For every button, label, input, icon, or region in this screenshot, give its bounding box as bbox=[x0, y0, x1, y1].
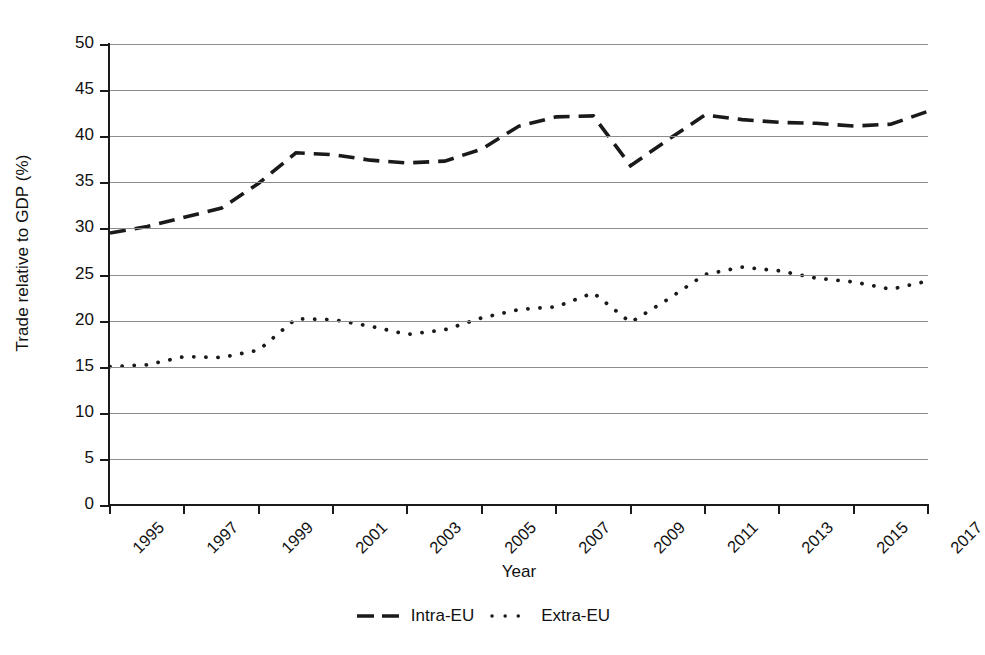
gridline bbox=[110, 321, 928, 322]
x-tick-label: 2009 bbox=[649, 518, 688, 557]
gridline bbox=[110, 275, 928, 276]
x-tick-mark bbox=[630, 505, 632, 514]
gridline bbox=[110, 90, 928, 91]
dotted-line-marker bbox=[490, 610, 532, 622]
y-tick-label: 50 bbox=[58, 33, 94, 53]
y-tick-label: 10 bbox=[58, 402, 94, 422]
gridline bbox=[110, 228, 928, 229]
x-tick-label: 2003 bbox=[426, 518, 465, 557]
y-tick-label: 25 bbox=[58, 264, 94, 284]
gridline bbox=[110, 459, 928, 460]
series-line-extra-eu bbox=[110, 267, 928, 367]
y-tick-label: 5 bbox=[58, 448, 94, 468]
y-tick-mark bbox=[100, 182, 109, 184]
y-tick-mark bbox=[100, 367, 109, 369]
x-tick-mark bbox=[853, 505, 855, 514]
y-tick-label: 15 bbox=[58, 356, 94, 376]
x-tick-label: 2017 bbox=[947, 518, 985, 557]
x-tick-mark bbox=[258, 505, 260, 514]
x-axis-title: Year bbox=[502, 562, 537, 581]
y-tick-mark bbox=[100, 321, 109, 323]
y-tick-mark bbox=[100, 275, 109, 277]
y-tick-label: 45 bbox=[58, 79, 94, 99]
gridline bbox=[110, 44, 928, 45]
legend-item-extra-eu: Extra-EU bbox=[490, 606, 610, 626]
y-axis-title: Trade relative to GDP (%) bbox=[13, 154, 33, 351]
x-tick-mark bbox=[927, 505, 929, 514]
gridline bbox=[110, 367, 928, 368]
gridline bbox=[110, 182, 928, 183]
x-tick-label: 1999 bbox=[277, 518, 316, 557]
y-tick-mark bbox=[100, 90, 109, 92]
legend-label-extra-eu: Extra-EU bbox=[541, 606, 610, 626]
y-tick-mark bbox=[100, 44, 109, 46]
y-tick-mark bbox=[100, 459, 109, 461]
gridline bbox=[110, 136, 928, 137]
x-tick-label: 2011 bbox=[723, 518, 762, 557]
dashed-line-marker bbox=[356, 610, 402, 622]
x-tick-label: 2015 bbox=[872, 518, 911, 557]
x-tick-label: 1995 bbox=[129, 518, 168, 557]
y-tick-mark bbox=[100, 505, 109, 507]
x-tick-mark bbox=[704, 505, 706, 514]
y-axis-tick-labels: 05101520253035404550 bbox=[50, 0, 94, 520]
x-tick-mark bbox=[332, 505, 334, 514]
gridline bbox=[110, 413, 928, 414]
y-tick-label: 30 bbox=[58, 217, 94, 237]
x-tick-mark bbox=[109, 505, 111, 514]
legend-item-intra-eu: Intra-EU bbox=[356, 606, 474, 626]
x-tick-mark bbox=[406, 505, 408, 514]
x-tick-label: 2013 bbox=[798, 518, 837, 557]
x-tick-label: 2007 bbox=[575, 518, 614, 557]
y-tick-label: 40 bbox=[58, 125, 94, 145]
y-tick-mark bbox=[100, 413, 109, 415]
x-tick-mark bbox=[183, 505, 185, 514]
y-tick-label: 20 bbox=[58, 310, 94, 330]
x-tick-mark bbox=[555, 505, 557, 514]
y-axis-title-container: Trade relative to GDP (%) bbox=[6, 0, 40, 505]
y-tick-label: 0 bbox=[58, 494, 94, 514]
plot-area bbox=[110, 44, 928, 505]
x-axis-title-container: Year bbox=[110, 562, 928, 582]
chart-legend: Intra-EU Extra-EU bbox=[0, 606, 966, 626]
y-tick-mark bbox=[100, 228, 109, 230]
x-tick-mark bbox=[778, 505, 780, 514]
x-tick-label: 2005 bbox=[501, 518, 540, 557]
series-line-intra-eu bbox=[110, 111, 928, 233]
x-tick-mark bbox=[481, 505, 483, 514]
legend-label-intra-eu: Intra-EU bbox=[411, 606, 474, 626]
x-tick-label: 2001 bbox=[352, 518, 391, 557]
y-tick-label: 35 bbox=[58, 171, 94, 191]
x-tick-label: 1997 bbox=[203, 518, 242, 557]
y-tick-mark bbox=[100, 136, 109, 138]
